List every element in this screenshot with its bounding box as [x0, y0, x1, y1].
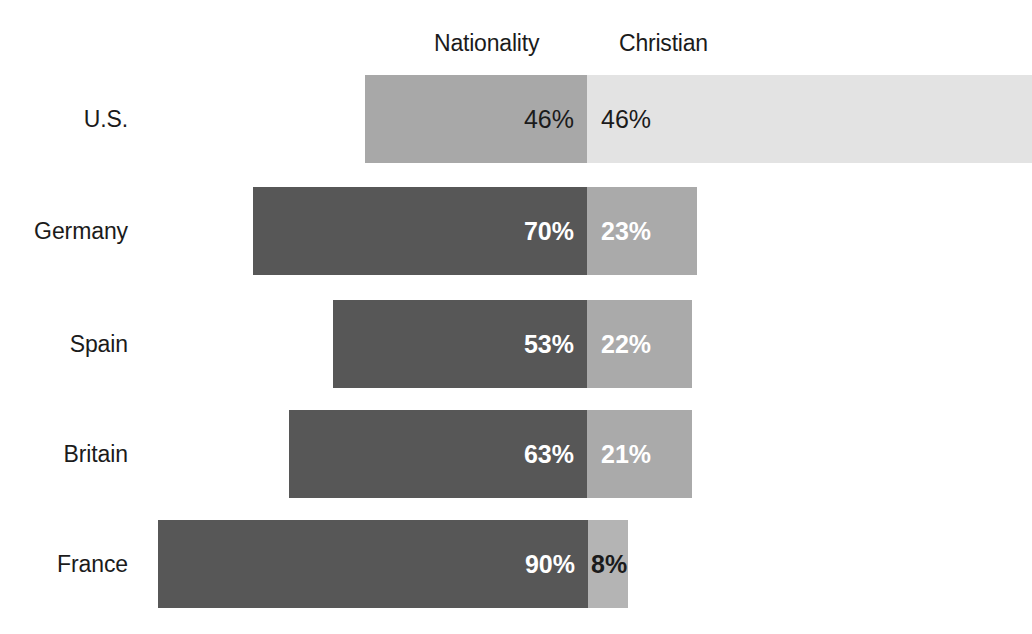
bar-group-germany: 70% 23%: [253, 187, 697, 275]
category-label-britain: Britain: [64, 441, 129, 468]
category-label-spain: Spain: [70, 331, 128, 358]
bar-value-christian-germany: 23%: [587, 217, 651, 246]
bar-value-christian-france: 8%: [588, 550, 627, 579]
bar-value-nationality-us: 46%: [524, 105, 587, 134]
bar-row-us: U.S. 46% 46%: [0, 75, 814, 163]
bar-row-germany: Germany 70% 23%: [0, 187, 814, 275]
category-label-us: U.S.: [84, 106, 128, 133]
category-label-germany: Germany: [34, 218, 128, 245]
bar-segment-nationality-britain[interactable]: 63%: [289, 410, 587, 498]
bar-value-nationality-spain: 53%: [524, 330, 587, 359]
bar-row-france: France 90% 8%: [0, 520, 814, 608]
column-header-nationality: Nationality: [434, 30, 539, 57]
bar-row-britain: Britain 63% 21%: [0, 410, 814, 498]
bar-value-nationality-britain: 63%: [524, 440, 587, 469]
bar-value-christian-britain: 21%: [587, 440, 651, 469]
bar-value-nationality-france: 90%: [525, 550, 588, 579]
bar-segment-christian-us[interactable]: 46%: [587, 75, 1032, 163]
bar-value-christian-us: 46%: [587, 105, 651, 134]
bar-group-france: 90% 8%: [158, 520, 628, 608]
bar-segment-nationality-germany[interactable]: 70%: [253, 187, 587, 275]
bar-group-spain: 53% 22%: [333, 300, 692, 388]
bar-segment-christian-britain[interactable]: 21%: [587, 410, 692, 498]
bar-segment-christian-germany[interactable]: 23%: [587, 187, 697, 275]
bar-segment-christian-france[interactable]: 8%: [588, 520, 628, 608]
bar-group-britain: 63% 21%: [289, 410, 692, 498]
category-label-france: France: [57, 551, 128, 578]
column-header-christian: Christian: [619, 30, 708, 57]
bar-segment-nationality-france[interactable]: 90%: [158, 520, 588, 608]
bar-group-us: 46% 46%: [365, 75, 1032, 163]
bar-segment-nationality-spain[interactable]: 53%: [333, 300, 587, 388]
bar-value-christian-spain: 22%: [587, 330, 651, 359]
bar-segment-christian-spain[interactable]: 22%: [587, 300, 692, 388]
bar-row-spain: Spain 53% 22%: [0, 300, 814, 388]
bar-segment-nationality-us[interactable]: 46%: [365, 75, 587, 163]
bar-value-nationality-germany: 70%: [524, 217, 587, 246]
